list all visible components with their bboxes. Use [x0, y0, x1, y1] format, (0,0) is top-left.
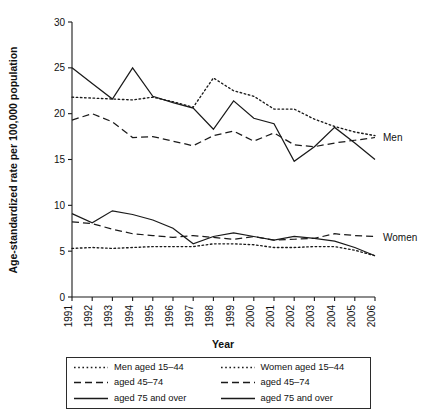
- y-tick-label: 25: [54, 62, 66, 73]
- legend-dotted-line-icon: [73, 363, 109, 372]
- chart-legend: Men aged 15–44Women aged 15–44aged 45–74…: [66, 357, 371, 409]
- series-line-men-aged-75-and-over: [72, 68, 375, 162]
- y-tick-label: 30: [54, 17, 66, 28]
- x-tick-label: 2005: [346, 305, 357, 328]
- x-tick-label: 2002: [285, 305, 296, 328]
- x-axis-ticks: 1991199219931994199519961997199819992000…: [63, 297, 377, 327]
- legend-item-left-3[interactable]: aged 75 and over: [73, 391, 220, 406]
- legend-item-right-2[interactable]: aged 45–74: [220, 375, 367, 390]
- x-tick-label: 1996: [164, 305, 175, 328]
- series-line-women-aged-15-44: [72, 244, 375, 256]
- legend-item-left-2[interactable]: aged 45–74: [73, 375, 220, 390]
- y-tick-label: 5: [59, 246, 65, 257]
- legend-item-right-3[interactable]: aged 75 and over: [220, 391, 367, 406]
- legend-item-label: Women aged 15–44: [261, 363, 345, 372]
- x-tick-label: 1994: [124, 305, 135, 328]
- x-tick-label: 1992: [83, 305, 94, 328]
- y-tick-label: 20: [54, 108, 66, 119]
- y-axis-title: Age-standardized rate per 100,000 popula…: [7, 47, 19, 274]
- legend-solid-line-icon: [73, 394, 109, 403]
- series-line-men-aged-15-44: [72, 78, 375, 136]
- legend-solid-line-icon: [220, 394, 256, 403]
- chart-figure: 051015202530 199119921993199419951996199…: [0, 0, 437, 417]
- y-tick-label: 10: [54, 200, 66, 211]
- y-tick-label: 15: [54, 154, 66, 165]
- x-tick-label: 1998: [204, 305, 215, 328]
- x-tick-label: 1993: [103, 305, 114, 328]
- men-group-label: Men: [383, 132, 402, 143]
- data-series-group: [72, 68, 375, 256]
- series-line-women-aged-45-74: [72, 222, 375, 240]
- legend-grid: Men aged 15–44Women aged 15–44aged 45–74…: [67, 358, 370, 408]
- x-tick-label: 1995: [144, 305, 155, 328]
- legend-item-left-1[interactable]: Men aged 15–44: [73, 360, 220, 375]
- x-tick-label: 2000: [245, 305, 256, 328]
- y-tick-label: 0: [59, 292, 65, 303]
- legend-item-right-1[interactable]: Women aged 15–44: [220, 360, 367, 375]
- group-labels: MenWomen: [383, 132, 417, 243]
- series-line-women-aged-75-and-over: [72, 211, 375, 256]
- legend-dashed-line-icon: [220, 378, 256, 387]
- x-tick-label: 2001: [265, 305, 276, 328]
- x-tick-label: 2006: [366, 305, 377, 328]
- x-tick-label: 2003: [305, 305, 316, 328]
- x-axis-title: Year: [212, 338, 234, 350]
- series-line-men-aged-45-74: [72, 114, 375, 147]
- legend-item-label: aged 75 and over: [114, 394, 186, 403]
- x-tick-label: 2004: [326, 305, 337, 328]
- legend-item-label: Men aged 15–44: [114, 363, 184, 372]
- legend-item-label: aged 45–74: [114, 378, 163, 387]
- legend-item-label: aged 45–74: [261, 378, 310, 387]
- line-chart-plot: 051015202530 199119921993199419951996199…: [0, 0, 437, 417]
- x-tick-label: 1999: [225, 305, 236, 328]
- axes: [72, 22, 375, 297]
- women-group-label: Women: [383, 232, 417, 243]
- x-tick-label: 1997: [184, 305, 195, 328]
- legend-dashed-line-icon: [73, 378, 109, 387]
- y-axis-ticks: 051015202530: [54, 17, 72, 303]
- x-tick-label: 1991: [63, 305, 74, 328]
- legend-dotted-line-icon: [220, 363, 256, 372]
- legend-item-label: aged 75 and over: [261, 394, 333, 403]
